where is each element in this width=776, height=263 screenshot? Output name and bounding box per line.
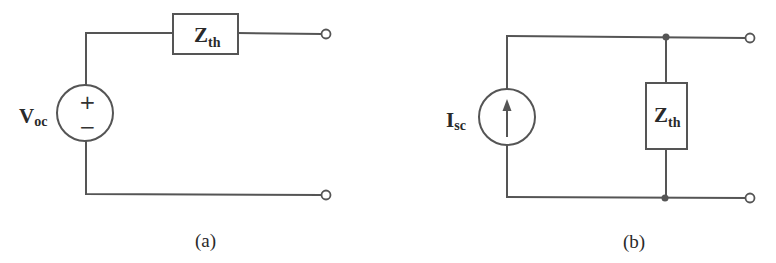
impedance-zth-b: Zth <box>646 83 687 149</box>
wire-bottom <box>86 141 321 195</box>
terminal-bottom-b <box>746 194 755 203</box>
terminal-bottom-a <box>322 191 331 200</box>
caption-a: (a) <box>195 230 216 252</box>
impedance-zth-a: Zth <box>173 14 238 54</box>
wire-bottom <box>507 145 745 198</box>
wire-top-right <box>238 33 321 34</box>
terminal-top-a <box>322 30 331 39</box>
minus-sign: − <box>79 115 96 139</box>
wire-left-top <box>86 33 173 85</box>
source-label-isc: Isc <box>446 108 466 133</box>
voltage-source-icon: + − <box>57 85 113 141</box>
panel-b-norton-circuit: Isc Zth (b) <box>446 34 755 254</box>
panel-b-wires <box>507 36 745 198</box>
current-source-icon <box>479 89 535 145</box>
caption-b: (b) <box>623 231 645 253</box>
junction-node-top <box>663 34 670 41</box>
terminal-top-b <box>746 34 755 43</box>
panel-a-thevenin-circuit: Zth + − Voc (a) <box>19 14 331 252</box>
source-label-voc: Voc <box>19 104 47 129</box>
plus-sign: + <box>79 90 96 114</box>
circuit-figure: Zth + − Voc (a) <box>0 0 776 263</box>
junction-node-bottom <box>662 195 669 202</box>
panel-a-wires <box>86 33 321 195</box>
wire-top <box>507 36 745 89</box>
